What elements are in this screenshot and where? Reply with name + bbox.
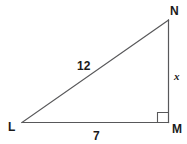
side-label-base: 7 — [93, 129, 100, 143]
vertex-label-L: L — [8, 120, 15, 134]
side-label-hypotenuse: 12 — [77, 59, 91, 73]
triangle-diagram: N L M 12 x 7 — [0, 0, 187, 144]
side-LN-hypotenuse-line — [22, 20, 169, 123]
side-label-vertical: x — [173, 70, 180, 82]
triangle-svg: N L M 12 x 7 — [0, 0, 187, 144]
right-angle-marker — [158, 113, 169, 123]
vertex-label-N: N — [170, 4, 179, 18]
vertex-label-M: M — [172, 122, 182, 136]
